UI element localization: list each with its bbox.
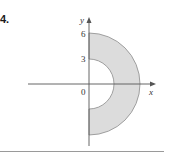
y-axis-arrow-icon [87,17,92,23]
y-tick-3: 3 [81,54,86,64]
origin-label: 0 [81,87,86,97]
polar-region-figure: y x 6 3 0 [0,0,169,163]
x-axis-label: x [148,87,153,97]
y-axis-label: y [79,15,84,25]
y-tick-6: 6 [81,29,86,39]
section-divider [0,151,164,152]
x-axis-arrow-icon [150,82,156,87]
